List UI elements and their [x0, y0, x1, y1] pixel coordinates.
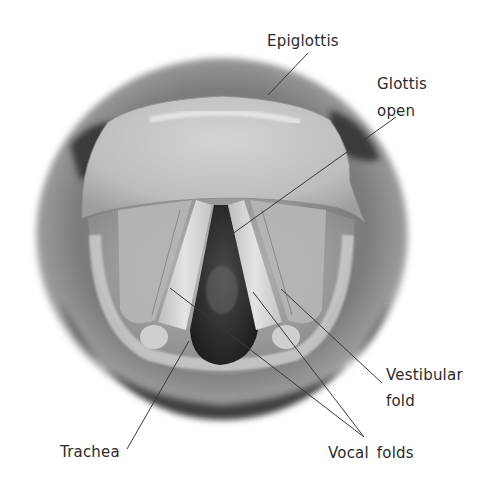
label-trachea: Trachea: [60, 443, 120, 462]
label-vestibular-line2: fold: [386, 392, 415, 411]
label-glottis-line2: open: [377, 102, 415, 121]
label-vocal-folds: Vocal folds: [328, 444, 414, 463]
arytenoid-left: [140, 325, 168, 349]
arytenoid-right: [272, 325, 300, 349]
label-vestibular-line1: Vestibular: [386, 366, 463, 385]
label-epiglottis: Epiglottis: [267, 32, 339, 51]
label-glottis-line1: Glottis: [377, 75, 427, 94]
larynx-diagram: Epiglottis Glottis open Vestibular fold …: [0, 0, 498, 502]
